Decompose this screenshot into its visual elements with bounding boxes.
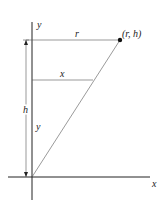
- r-label: r: [75, 28, 79, 39]
- x-segment-label: x: [59, 68, 65, 79]
- point-label: (r, h): [122, 28, 142, 40]
- arrow-down-icon: [24, 172, 28, 177]
- arrow-up-icon: [24, 40, 28, 45]
- x-axis-label: x: [151, 178, 157, 189]
- h-label: h: [23, 104, 28, 115]
- y-axis-label: y: [36, 19, 42, 30]
- diagram-canvas: y x r (r, h) x h y: [0, 0, 164, 204]
- y-height-label: y: [35, 121, 41, 132]
- cone-slant-line: [32, 40, 120, 177]
